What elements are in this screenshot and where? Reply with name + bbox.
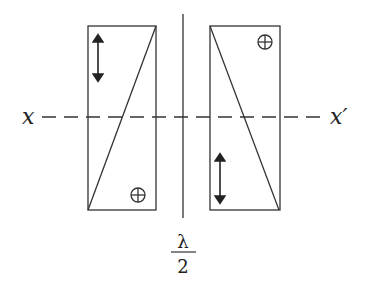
half-wavelength-label: λ 2 [171, 231, 196, 277]
left-out-of-plane-icon [131, 188, 145, 202]
fraction-denominator: 2 [177, 256, 188, 277]
fraction-numerator: λ [177, 231, 188, 252]
left-prism [88, 26, 156, 210]
axis-right-label: x′ [330, 104, 347, 129]
right-out-of-plane-icon [258, 35, 272, 49]
wollaston-prism-diagram: x x′ λ 2 [0, 0, 374, 286]
right-prism [210, 26, 280, 210]
axis-left-label: x [22, 104, 35, 129]
